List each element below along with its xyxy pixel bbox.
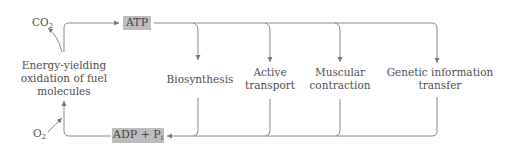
arrow-atp-to-muscular — [335, 23, 340, 62]
atp-distribution-line — [154, 23, 437, 63]
arrow-adp-to-oxidation — [64, 101, 111, 136]
muscular-line1: Muscular — [306, 66, 374, 79]
oxidation-line1: Energy-yielding — [18, 59, 110, 72]
muscular-line2: contraction — [306, 79, 374, 92]
adp-box: ADP + Pi — [112, 128, 164, 143]
active-transport-line2: transport — [240, 79, 300, 92]
co2-sub: 2 — [49, 22, 53, 30]
return-active-transport — [266, 99, 270, 136]
oxidation-node: Energy-yielding oxidation of fuel molecu… — [18, 59, 110, 98]
biosynthesis-label: Biosynthesis — [163, 73, 237, 86]
muscular-contraction-node: Muscular contraction — [306, 66, 374, 92]
co2-text: CO — [32, 16, 49, 28]
arrow-atp-to-biosynthesis — [193, 23, 198, 60]
oxidation-line2: oxidation of fuel — [18, 72, 110, 85]
return-line — [167, 97, 437, 136]
o2-sub: 2 — [42, 133, 46, 141]
biosynthesis-node: Biosynthesis — [163, 73, 237, 86]
arrow-atp-to-active-transport — [265, 23, 270, 62]
genetic-transfer-node: Genetic information transfer — [384, 66, 496, 92]
active-transport-node: Active transport — [240, 66, 300, 92]
return-biosynthesis — [194, 98, 198, 136]
genetic-line1: Genetic information — [384, 66, 496, 79]
atp-box: ATP — [123, 16, 151, 30]
genetic-line2: transfer — [384, 79, 496, 92]
o2-label: O2 — [33, 127, 46, 144]
co2-label: CO2 — [32, 16, 53, 33]
atp-label: ATP — [126, 16, 148, 29]
arrow-o2-to-oxidation — [48, 118, 62, 132]
arrow-oxidation-to-atp — [64, 23, 119, 52]
return-muscular — [336, 99, 340, 136]
o2-text: O — [33, 127, 42, 139]
active-transport-line1: Active — [240, 66, 300, 79]
adp-sub: i — [161, 134, 163, 142]
oxidation-line3: molecules — [18, 85, 110, 98]
adp-text: ADP + P — [113, 128, 161, 141]
